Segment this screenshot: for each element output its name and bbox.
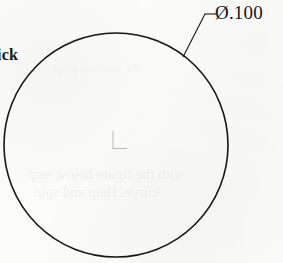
hole-circle — [4, 33, 228, 257]
diameter-dimension-label: Ø.100 — [215, 2, 263, 23]
diameter-leader-line — [183, 14, 216, 57]
drawing-canvas: with the figure below step curve. Help a… — [0, 0, 283, 263]
center-mark — [113, 131, 127, 149]
left-clipped-label: ick — [0, 45, 18, 64]
technical-drawing-svg — [0, 0, 283, 263]
leader-diagonal-segment — [183, 14, 205, 57]
